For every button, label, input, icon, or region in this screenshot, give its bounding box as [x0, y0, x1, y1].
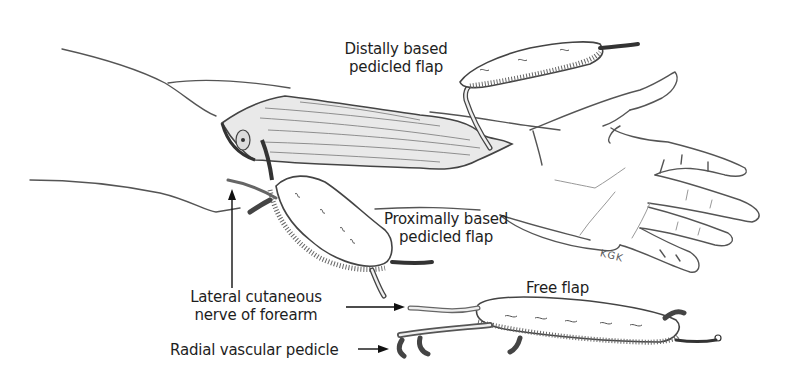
flap-illustration: Distally based pedicled flap Proximally … — [0, 0, 791, 387]
label-proximal-flap-line2: pedicled flap — [378, 228, 514, 246]
free-flap — [399, 297, 721, 356]
hand-drawing — [500, 72, 759, 272]
label-free-flap: Free flap — [526, 279, 589, 297]
label-distal-flap-line1: Distally based — [336, 40, 456, 58]
label-proximal-flap-line1: Proximally based — [378, 210, 514, 228]
label-proximal-flap: Proximally based pedicled flap — [378, 210, 514, 246]
label-distal-flap: Distally based pedicled flap — [336, 40, 456, 76]
label-nerve: Lateral cutaneous nerve of forearm — [176, 288, 336, 324]
label-nerve-line2: nerve of forearm — [176, 306, 336, 324]
label-nerve-line1: Lateral cutaneous — [176, 288, 336, 306]
distal-pedicled-flap — [460, 42, 638, 148]
label-distal-flap-line2: pedicled flap — [336, 58, 456, 76]
label-radial-pedicle: Radial vascular pedicle — [170, 341, 339, 359]
